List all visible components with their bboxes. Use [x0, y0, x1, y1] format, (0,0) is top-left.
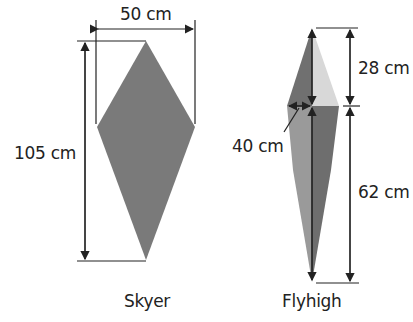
skyer-name: Skyer	[124, 291, 170, 311]
flyhigh-upper-label: 28 cm	[358, 58, 409, 78]
skyer-width-label: 50 cm	[120, 4, 171, 24]
flyhigh-name: Flyhigh	[282, 291, 342, 311]
flyhigh-lower-label: 62 cm	[358, 182, 409, 202]
skyer-height-label: 105 cm	[14, 143, 76, 163]
flyhigh-kite	[284, 28, 360, 283]
skyer-kite	[77, 20, 195, 261]
flyhigh-half-width-label: 40 cm	[232, 136, 283, 156]
